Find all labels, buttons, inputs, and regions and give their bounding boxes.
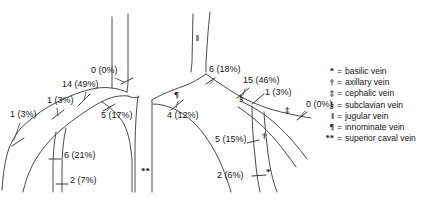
legend-symbol-jugular: ‖ bbox=[318, 111, 334, 122]
legend-row-innominate: ¶ = innominate vein bbox=[318, 122, 438, 133]
legend-row-basilic: * = basilic vein bbox=[318, 66, 438, 77]
legend-label-basilic: basilic vein bbox=[345, 66, 387, 77]
vessel-symbol-cephalic-right: ‡ bbox=[285, 105, 290, 115]
left-outer-vessel-line bbox=[2, 129, 20, 190]
legend-row-superior-caval: ** = superior caval vein bbox=[318, 133, 438, 144]
legend-label-subclavian: subclavian vein bbox=[345, 100, 403, 111]
measurement-label-left-outer-distal: 1 (3%) bbox=[10, 109, 37, 119]
tick-right-sub-distal bbox=[252, 94, 264, 104]
legend-symbol-superior-caval: ** bbox=[318, 133, 334, 144]
measurement-label-left-jugular: 0 (0%) bbox=[91, 65, 118, 75]
vessel-symbol-innominate-left: ¶ bbox=[174, 90, 179, 100]
legend-label-jugular: jugular vein bbox=[345, 111, 388, 122]
legend-equals-subclavian: = bbox=[334, 100, 345, 111]
right-jugular-vessel-line-inner bbox=[191, 14, 193, 72]
measurement-label-right-basilic: 2 (6%) bbox=[217, 170, 244, 180]
right-basilic-vessel-line bbox=[264, 112, 277, 192]
legend-row-cephalic: ‡ = cephalic vein bbox=[318, 88, 438, 99]
legend-equals-cephalic: = bbox=[334, 88, 345, 99]
leader-left-outer-distal bbox=[14, 123, 20, 140]
legend-symbol-subclavian: § bbox=[318, 100, 334, 111]
measurement-label-left-innominate: 5 (17%) bbox=[101, 110, 133, 120]
measurement-label-right-sub-distal: 1 (3%) bbox=[265, 87, 292, 97]
venous-anatomy-diagram: 1 (3%) 1 (3%) 14 (49%) 0 (0%) 5 (17%) 6 … bbox=[0, 0, 439, 200]
measurement-label-right-jugular: 6 (18%) bbox=[209, 64, 241, 74]
legend-equals-axillary: = bbox=[334, 77, 345, 88]
measurement-label-left-subclavian: 14 (49%) bbox=[62, 79, 99, 89]
measurement-label-right-innominate: 4 (12%) bbox=[167, 110, 199, 120]
legend-row-subclavian: § = subclavian vein bbox=[318, 100, 438, 111]
vessel-symbol-jugular-left: ‖ bbox=[196, 33, 199, 43]
legend-equals-basilic: = bbox=[334, 66, 345, 77]
legend-symbol-basilic: * bbox=[318, 66, 334, 77]
measurement-label-right-axillary: 5 (15%) bbox=[215, 134, 247, 144]
superior-caval-vein-left-wall bbox=[135, 96, 138, 192]
left-axillary-vessel-line bbox=[53, 132, 56, 192]
tick-right-basilic bbox=[252, 175, 266, 176]
leader-left-jugular bbox=[115, 78, 124, 82]
vessel-symbol-basilic-right: * bbox=[266, 167, 271, 177]
vessel-symbol-superior-caval-vein: ** bbox=[141, 166, 150, 176]
legend-label-cephalic: cephalic vein bbox=[345, 88, 394, 99]
legend-equals-jugular: = bbox=[334, 111, 345, 122]
left-innominate-to-svc bbox=[128, 96, 139, 98]
legend-label-innominate: innominate vein bbox=[345, 122, 405, 133]
right-axillary-vessel-line bbox=[252, 106, 260, 192]
right-innominate-upper-border bbox=[152, 74, 206, 100]
legend-row-jugular: ‖ = jugular vein bbox=[318, 111, 438, 122]
legend-symbol-cephalic: ‡ bbox=[318, 88, 334, 99]
legend-equals-innominate: = bbox=[334, 122, 345, 133]
right-jugular-vessel-line-outer bbox=[206, 12, 210, 72]
legend-label-superior-caval: superior caval vein bbox=[345, 133, 416, 144]
legend-row-axillary: † = axillary vein bbox=[318, 77, 438, 88]
legend: * = basilic vein † = axillary vein ‡ = c… bbox=[318, 66, 438, 144]
vessel-symbol-axillary-right: † bbox=[262, 131, 267, 141]
measurement-label-left-mid-distal: 1 (3%) bbox=[47, 95, 74, 105]
measurement-label-right-subclavian: 15 (46%) bbox=[243, 75, 280, 85]
legend-equals-superior-caval: = bbox=[334, 133, 345, 144]
legend-symbol-axillary: † bbox=[318, 77, 334, 88]
legend-label-axillary: axillary vein bbox=[345, 77, 389, 88]
left-basilic-vessel-line bbox=[62, 128, 66, 192]
measurement-label-left-axillary: 6 (21%) bbox=[64, 150, 96, 160]
measurement-label-left-basilic: 2 (7%) bbox=[70, 175, 97, 185]
legend-symbol-innominate: ¶ bbox=[318, 122, 334, 133]
vessel-symbol-subclavian-right: § bbox=[239, 93, 244, 103]
